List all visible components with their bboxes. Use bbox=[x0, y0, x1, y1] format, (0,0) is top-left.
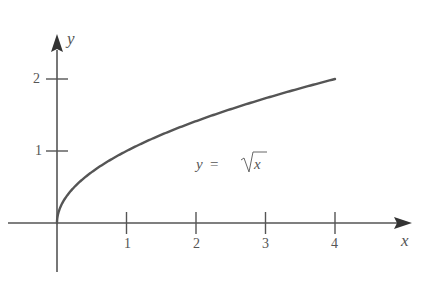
curve-label-x: x bbox=[254, 157, 261, 172]
x-axis-label: x bbox=[401, 232, 409, 249]
curve-label-y: y bbox=[196, 157, 203, 172]
ytick-label-2: 2 bbox=[33, 72, 40, 86]
chart-canvas bbox=[0, 0, 437, 287]
ytick-label-1: 1 bbox=[35, 144, 42, 158]
xtick-label-4: 4 bbox=[331, 237, 338, 251]
sqrt-curve bbox=[57, 79, 335, 223]
y-axis-arrow-icon bbox=[51, 34, 63, 52]
sqrt-function-plot: y x 2 1 1 2 3 4 y = x bbox=[0, 0, 437, 287]
xtick-label-1: 1 bbox=[124, 237, 131, 251]
curve-label-equals: = bbox=[210, 157, 218, 172]
y-axis-label: y bbox=[67, 30, 75, 47]
xtick-label-3: 3 bbox=[262, 237, 269, 251]
xtick-label-2: 2 bbox=[193, 237, 200, 251]
